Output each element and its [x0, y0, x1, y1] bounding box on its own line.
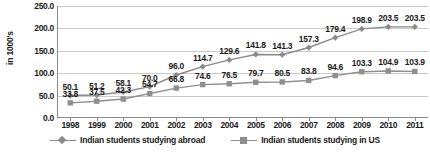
chart-legend: Indian students studying abroadIndian st… [0, 135, 430, 145]
data-point-marker [200, 82, 205, 87]
square-marker-icon [240, 137, 247, 144]
data-point-marker [333, 73, 338, 78]
y-axis-tick-label: 100.0 [22, 68, 54, 78]
x-axis-tick-label: 1998 [61, 120, 79, 130]
y-axis-title: in 1000's [5, 18, 15, 78]
data-point-marker [147, 91, 152, 96]
series-lines [57, 6, 428, 118]
data-point-label: 157.3 [299, 34, 319, 44]
x-axis-tick-label: 2005 [247, 120, 265, 130]
data-point-label: 103.3 [352, 58, 372, 68]
x-axis-tick-label: 2001 [141, 120, 159, 130]
data-point-label: 66.8 [169, 74, 184, 84]
y-axis-tick-label: 250.0 [22, 1, 54, 11]
legend-marker-key [231, 135, 257, 145]
x-axis-tick-label: 2004 [220, 120, 238, 130]
data-point-label: 141.8 [246, 40, 266, 50]
data-point-label: 54.7 [142, 79, 157, 89]
x-axis-tick-label: 2002 [167, 120, 185, 130]
y-axis-tick-label: 0.0 [22, 113, 54, 123]
x-axis-tick-label: 2008 [326, 120, 344, 130]
legend-label: Indian students studying in US [261, 135, 380, 145]
data-point-marker [412, 69, 417, 74]
data-point-marker [94, 99, 99, 104]
x-axis-tick-label: 2006 [273, 120, 291, 130]
x-axis-tick-label: 2009 [353, 120, 371, 130]
plot-area: 50.151.258.170.096.0114.7129.6141.8141.3… [57, 6, 428, 118]
data-point-label: 79.7 [248, 68, 263, 78]
x-axis-tick-label: 1999 [88, 120, 106, 130]
data-point-label: 203.5 [405, 13, 425, 23]
y-axis-tick-label: 150.0 [22, 46, 54, 56]
legend-marker-key [50, 135, 76, 145]
data-point-label: 94.6 [328, 62, 343, 72]
data-point-label: 74.6 [195, 71, 210, 81]
y-axis-tick-label: 50.0 [22, 91, 54, 101]
data-point-marker [279, 52, 285, 58]
data-point-marker [306, 78, 311, 83]
data-point-label: 104.9 [378, 57, 398, 67]
data-point-label: 129.6 [219, 46, 239, 56]
data-point-label: 96.0 [169, 61, 184, 71]
x-axis-tick-label: 2003 [194, 120, 212, 130]
data-point-marker [386, 68, 391, 73]
data-point-label: 42.3 [116, 85, 131, 95]
data-point-marker [332, 35, 338, 41]
data-point-marker [359, 26, 365, 32]
data-point-label: 37.5 [89, 87, 104, 97]
data-point-label: 114.7 [193, 53, 212, 63]
data-point-label: 80.5 [275, 68, 290, 78]
data-point-marker [200, 64, 206, 70]
line-chart: in 1000's 0.050.0100.0150.0200.0250.0 50… [0, 0, 430, 153]
data-point-label: 141.3 [272, 41, 292, 51]
data-point-marker [253, 80, 258, 85]
data-point-marker [253, 51, 259, 57]
data-point-marker [306, 44, 312, 50]
x-axis-tick-label: 2007 [300, 120, 318, 130]
diamond-marker-icon [58, 136, 66, 144]
data-point-label: 83.8 [301, 66, 316, 76]
legend-label: Indian students studying abroad [80, 135, 205, 145]
data-point-label: 198.9 [352, 15, 372, 25]
data-point-marker [174, 85, 179, 90]
data-point-marker [359, 69, 364, 74]
x-axis-tick-label: 2010 [379, 120, 397, 130]
legend-item[interactable]: Indian students studying in US [231, 135, 380, 145]
data-point-marker [412, 24, 418, 30]
data-point-label: 179.4 [325, 24, 345, 34]
data-point-label: 33.8 [63, 89, 78, 99]
legend-item[interactable]: Indian students studying abroad [50, 135, 205, 145]
x-axis-tick-label: 2000 [114, 120, 132, 130]
data-point-marker [121, 96, 126, 101]
data-point-label: 103.9 [405, 57, 425, 67]
data-point-marker [68, 100, 73, 105]
x-axis-tick-label: 2011 [406, 120, 423, 130]
data-point-marker [226, 57, 232, 63]
data-point-marker [280, 79, 285, 84]
data-point-label: 203.5 [378, 13, 398, 23]
data-point-marker [385, 24, 391, 30]
y-axis-tick-label: 200.0 [22, 23, 54, 33]
data-point-marker [227, 81, 232, 86]
data-point-label: 76.5 [222, 70, 237, 80]
